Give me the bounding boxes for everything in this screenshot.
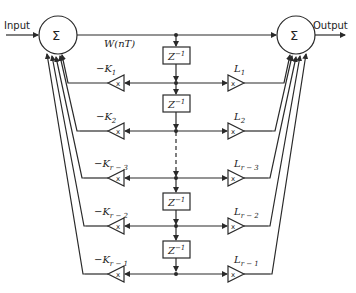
svg-text:x: x [116, 80, 120, 88]
svg-text:Lr − 1: Lr − 1 [233, 254, 259, 268]
svg-text:x: x [231, 175, 235, 183]
svg-text:x: x [116, 175, 120, 183]
svg-text:x: x [231, 80, 235, 88]
l-coefficient-labels: L1 L2 Lr − 3 Lr − 2 Lr − 1 [233, 63, 259, 268]
output-sum-symbol: Σ [290, 28, 298, 43]
input-sum-symbol: Σ [52, 28, 60, 43]
output-label: Output [313, 20, 348, 31]
svg-text:x: x [116, 223, 120, 231]
svg-text:−Kr − 3: −Kr − 3 [94, 158, 129, 172]
svg-text:−Kr − 1: −Kr − 1 [94, 254, 128, 268]
lattice-filter-diagram: Input Output Σ Σ W(nT) Z−1 Z−1 Z−1 Z−1 x… [0, 0, 356, 293]
svg-text:L1: L1 [233, 63, 245, 77]
svg-text:Z−1: Z−1 [167, 98, 185, 110]
k-coefficient-labels: −K1 −K2 −Kr − 3 −Kr − 2 −Kr − 1 [94, 63, 129, 268]
svg-text:Lr − 2: Lr − 2 [233, 206, 259, 220]
svg-text:−Kr − 2: −Kr − 2 [94, 206, 129, 220]
svg-text:Z−1: Z−1 [167, 196, 185, 208]
svg-text:L2: L2 [233, 111, 246, 125]
svg-text:−K2: −K2 [96, 111, 117, 125]
svg-text:Z−1: Z−1 [167, 244, 185, 256]
svg-text:Z−1: Z−1 [167, 50, 185, 62]
svg-text:x: x [116, 128, 120, 136]
svg-text:x: x [231, 128, 235, 136]
svg-text:Lr − 3: Lr − 3 [233, 158, 259, 172]
svg-text:x: x [116, 271, 120, 279]
svg-text:x: x [231, 223, 235, 231]
input-label: Input [4, 20, 30, 31]
svg-text:−K1: −K1 [96, 63, 116, 77]
state-label: W(nT) [104, 38, 135, 49]
svg-text:x: x [231, 271, 235, 279]
